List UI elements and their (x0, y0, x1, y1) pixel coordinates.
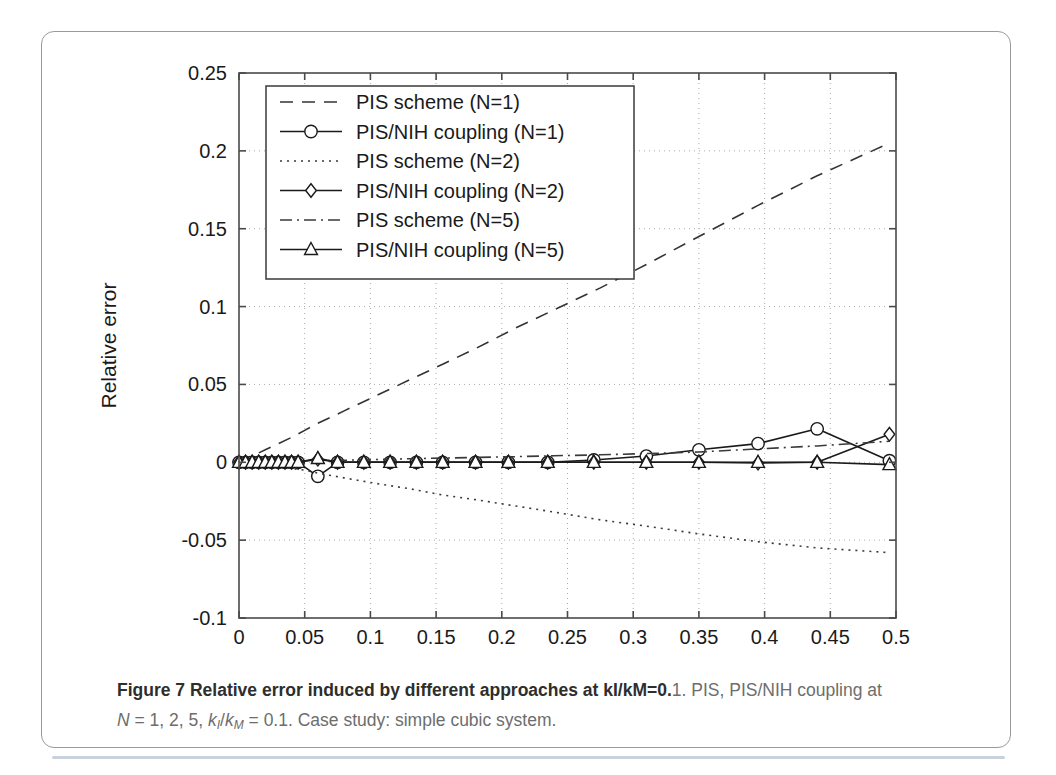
x-tick-label: 0 (233, 626, 244, 648)
x-tick-label: 0.4 (751, 626, 779, 648)
data-series (233, 451, 896, 469)
legend-label: PIS scheme (N=1) (356, 91, 520, 113)
caption-N-symbol: N (117, 710, 130, 730)
caption-rest-text: 1. PIS, PIS/NIH coupling at (672, 680, 882, 700)
x-tick-label: 0.1 (356, 626, 384, 648)
x-tick-label: 0.35 (679, 626, 718, 648)
series-line (239, 462, 889, 552)
card-bottom-rule (52, 756, 1005, 759)
chart-legend: PIS scheme (N=1)PIS/NIH coupling (N=1)PI… (266, 86, 634, 279)
y-tick-label: 0.05 (188, 373, 227, 395)
chart-plot-area: 00.050.10.150.20.250.30.350.40.450.5-0.1… (42, 32, 1012, 652)
marker-circle (312, 470, 324, 482)
caption-N-values: = 1, 2, 5, (130, 710, 208, 730)
legend-label: PIS/NIH coupling (N=2) (356, 180, 564, 202)
x-tick-label: 0.15 (417, 626, 456, 648)
legend-label: PIS/NIH coupling (N=1) (356, 121, 564, 143)
y-axis-label: Relative error (97, 282, 120, 408)
marker-diamond (884, 427, 895, 441)
caption-line-2: N = 1, 2, 5, kI/kM = 0.1. Case study: si… (117, 707, 972, 735)
y-tick-label: 0.1 (199, 296, 227, 318)
y-tick-label: 0.2 (199, 140, 227, 162)
y-tick-label: 0.15 (188, 218, 227, 240)
figure-caption: Figure 7 Relative error induced by diffe… (117, 677, 972, 735)
y-tick-label: 0 (216, 451, 227, 473)
caption-kI-symbol: k (208, 710, 217, 730)
marker-circle (752, 437, 764, 449)
screenshot-root: 00.050.10.150.20.250.30.350.40.450.5-0.1… (0, 0, 1056, 775)
x-tick-label: 0.05 (285, 626, 324, 648)
series-line (239, 429, 889, 476)
x-tick-label: 0.3 (619, 626, 647, 648)
data-series (239, 462, 889, 552)
caption-kM-subscript: M (234, 718, 244, 732)
data-series (233, 423, 896, 483)
caption-bold-text: Figure 7 Relative error induced by diffe… (117, 680, 672, 700)
marker-circle (305, 125, 317, 137)
legend-label: PIS scheme (N=2) (356, 150, 520, 172)
marker-circle (811, 423, 823, 435)
x-tick-label: 0.5 (882, 626, 910, 648)
legend-label: PIS/NIH coupling (N=5) (356, 239, 564, 261)
x-tick-label: 0.2 (488, 626, 516, 648)
y-tick-label: -0.05 (181, 529, 227, 551)
x-tick-label: 0.25 (548, 626, 587, 648)
relative-error-chart: 00.050.10.150.20.250.30.350.40.450.5-0.1… (42, 32, 1012, 652)
legend-label: PIS scheme (N=5) (356, 209, 520, 231)
caption-kM-symbol: k (225, 710, 234, 730)
y-tick-label: 0.25 (188, 62, 227, 84)
y-tick-label: -0.1 (193, 607, 227, 629)
caption-tail-text: = 0.1. Case study: simple cubic system. (244, 710, 557, 730)
x-tick-label: 0.45 (811, 626, 850, 648)
figure-card: 00.050.10.150.20.250.30.350.40.450.5-0.1… (41, 31, 1011, 748)
